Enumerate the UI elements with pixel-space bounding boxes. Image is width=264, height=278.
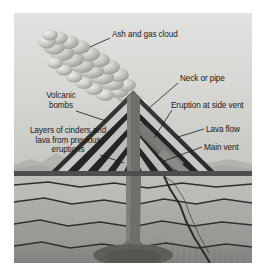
subsurface-cross-section [14,176,252,263]
label-main-vent: Main vent [204,143,239,153]
volcano-illustration: Ash and gas cloud Volcanic bombs Layers … [14,13,252,263]
diagram-canvas: Ash and gas cloud Volcanic bombs Layers … [0,0,264,278]
label-volcanic-bombs: Volcanic bombs [34,91,88,110]
label-neck-or-pipe: Neck or pipe [180,74,225,84]
label-lava-flow: Lava flow [206,125,240,135]
label-layers-of-cinders: Layers of cinders and lava from previous… [20,126,116,155]
label-ash-and-gas-cloud: Ash and gas cloud [112,30,178,40]
label-eruption-at-side-vent: Eruption at side vent [171,101,244,111]
